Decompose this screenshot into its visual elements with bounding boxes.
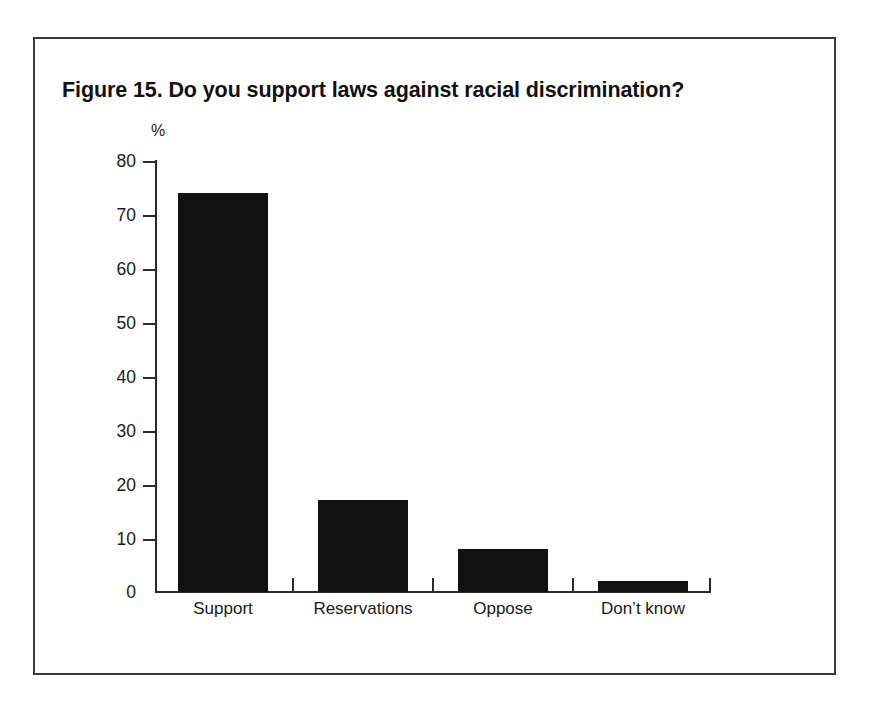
y-axis-tick-labels: 80 70 60 50 40 30 20 10 0: [96, 0, 136, 713]
y-axis-label-80: 80: [102, 153, 136, 171]
y-axis-label-40: 40: [102, 369, 136, 387]
y-axis-label-0: 0: [102, 584, 136, 602]
x-axis-tick-3: [572, 578, 574, 592]
y-axis-tick-40: [143, 377, 157, 379]
x-axis-label-oppose: Oppose: [458, 600, 548, 619]
y-axis-label-10: 10: [102, 531, 136, 549]
y-axis-tick-10: [143, 539, 157, 541]
x-axis-label-reservations: Reservations: [308, 600, 418, 619]
y-axis-tick-50: [143, 323, 157, 325]
y-axis-label-60: 60: [102, 261, 136, 279]
x-axis-label-dont-know: Don’t know: [588, 600, 698, 619]
y-axis-tick-20: [143, 485, 157, 487]
y-axis-tick-80: [143, 161, 157, 163]
y-axis-label-30: 30: [102, 423, 136, 441]
y-axis-unit-label: %: [151, 122, 165, 140]
bar-dont-know: [598, 581, 688, 592]
bar-support: [178, 193, 268, 592]
y-axis-label-20: 20: [102, 477, 136, 495]
x-axis-label-support: Support: [178, 600, 268, 619]
bar-oppose: [458, 549, 548, 592]
x-axis-tick-2: [432, 578, 434, 592]
bar-reservations: [318, 500, 408, 592]
y-axis-label-70: 70: [102, 207, 136, 225]
y-axis-tick-30: [143, 431, 157, 433]
y-axis-tick-70: [143, 215, 157, 217]
x-axis-tick-end: [709, 578, 711, 592]
y-axis-label-50: 50: [102, 315, 136, 333]
chart-title: Figure 15. Do you support laws against r…: [62, 78, 684, 103]
y-axis-tick-60: [143, 269, 157, 271]
x-axis-tick-1: [292, 578, 294, 592]
